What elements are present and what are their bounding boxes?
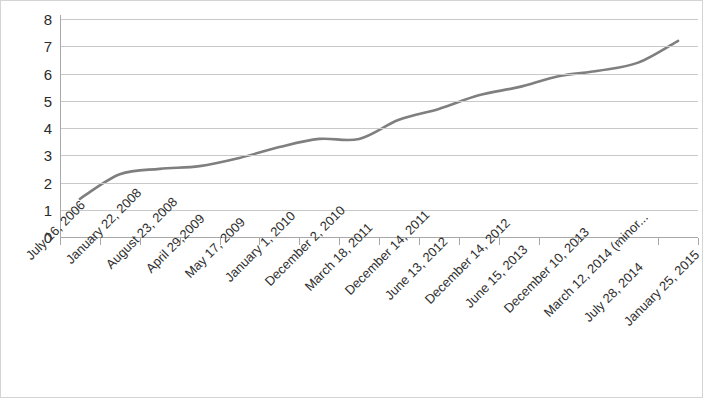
- gridline: [60, 101, 698, 102]
- x-tick-mark: [180, 238, 181, 245]
- data-series-line: [80, 41, 678, 199]
- gridline: [60, 183, 698, 184]
- y-tick-label: 4: [26, 121, 52, 136]
- x-tick-mark: [419, 238, 420, 245]
- line-chart: 876543210 July 16, 2006January 22, 2008A…: [0, 0, 703, 398]
- gridline: [60, 74, 698, 75]
- y-tick-label: 5: [26, 93, 52, 108]
- x-tick-mark: [100, 238, 101, 245]
- x-tick-mark: [339, 238, 340, 245]
- gridline: [60, 155, 698, 156]
- x-tick-mark: [618, 238, 619, 245]
- y-axis-line: [60, 15, 61, 243]
- y-tick-label: 8: [26, 12, 52, 27]
- y-tick-label: 7: [26, 39, 52, 54]
- x-tick-mark: [698, 238, 699, 245]
- gridline: [60, 46, 698, 47]
- y-tick-label: 3: [26, 148, 52, 163]
- x-tick-mark: [459, 238, 460, 245]
- x-tick-mark: [379, 238, 380, 245]
- gridline: [60, 19, 698, 20]
- plot-area: [60, 19, 698, 237]
- y-tick-label: 2: [26, 175, 52, 190]
- x-axis-tick-labels: July 16, 2006January 22, 2008August 23, …: [1, 237, 703, 397]
- x-tick-mark: [140, 238, 141, 245]
- x-tick-mark: [299, 238, 300, 245]
- x-tick-mark: [259, 238, 260, 245]
- x-tick-mark: [499, 238, 500, 245]
- y-axis-tick-labels: 876543210: [21, 19, 52, 237]
- y-tick-label: 6: [26, 66, 52, 81]
- x-tick-mark: [658, 238, 659, 245]
- gridline: [60, 128, 698, 129]
- y-tick-label: 1: [26, 202, 52, 217]
- x-tick-mark: [60, 238, 61, 245]
- x-tick-mark: [220, 238, 221, 245]
- x-tick-mark: [578, 238, 579, 245]
- x-tick-mark: [539, 238, 540, 245]
